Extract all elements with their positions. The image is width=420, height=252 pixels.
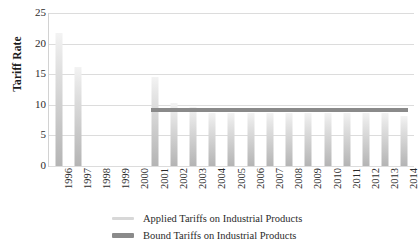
bar xyxy=(55,33,62,166)
x-tick-label: 2001 xyxy=(159,168,170,189)
bar-column xyxy=(395,13,414,166)
chart-legend: Applied Tariffs on Industrial Products B… xyxy=(112,210,412,244)
x-tick-label: 2000 xyxy=(139,168,150,189)
bar-column xyxy=(203,13,222,166)
x-tick-label: 2005 xyxy=(236,168,247,189)
x-axis-tick-labels: 1996199719981999200020012002200320042005… xyxy=(49,168,414,208)
y-tick-label: 25 xyxy=(4,6,46,18)
y-axis-tick-labels: 0510152025 xyxy=(0,13,46,166)
bar xyxy=(305,113,312,166)
bar xyxy=(170,103,177,166)
legend-item-applied: Applied Tariffs on Industrial Products xyxy=(112,210,412,227)
bar xyxy=(209,113,216,166)
bar xyxy=(343,113,350,166)
bar xyxy=(190,107,197,166)
y-tick-label: 15 xyxy=(4,67,46,79)
plot-area xyxy=(49,13,414,166)
bar xyxy=(401,116,408,166)
bar-column xyxy=(376,13,395,166)
x-tick-label: 2014 xyxy=(408,168,419,189)
gridline xyxy=(49,166,414,167)
bar xyxy=(382,113,389,166)
bar-series-applied-tariffs xyxy=(49,13,414,166)
legend-swatch-applied-icon xyxy=(112,217,134,220)
x-tick-label: 2010 xyxy=(332,168,343,189)
bar xyxy=(74,67,81,166)
chart-container: Tariff Rate 0510152025 19961997199819992… xyxy=(0,0,420,252)
bar xyxy=(362,113,369,166)
x-tick-label: 2009 xyxy=(312,168,323,189)
x-tick-label: 1997 xyxy=(82,168,93,189)
legend-label-applied: Applied Tariffs on Industrial Products xyxy=(143,213,302,224)
x-tick-label: 2002 xyxy=(178,168,189,189)
bar xyxy=(228,113,235,166)
bar-column xyxy=(164,13,183,166)
x-tick-label: 2004 xyxy=(216,168,227,189)
legend-item-bound: Bound Tariffs on Industrial Products xyxy=(112,227,412,244)
y-tick-label: 20 xyxy=(4,37,46,49)
y-tick-label: 0 xyxy=(4,159,46,171)
y-tick-label: 10 xyxy=(4,98,46,110)
bar-column xyxy=(337,13,356,166)
x-tick-label: 2008 xyxy=(293,168,304,189)
bar-column xyxy=(280,13,299,166)
bar xyxy=(247,113,254,166)
x-tick-label: 1999 xyxy=(120,168,131,189)
bar xyxy=(266,113,273,166)
x-tick-label: 2011 xyxy=(351,168,362,189)
bar-column xyxy=(49,13,68,166)
bar-column xyxy=(299,13,318,166)
bar-column xyxy=(241,13,260,166)
bar-column xyxy=(260,13,279,166)
x-tick-label: 2012 xyxy=(370,168,381,189)
bar-column xyxy=(183,13,202,166)
bar-column xyxy=(145,13,164,166)
x-tick-label: 2013 xyxy=(389,168,400,189)
bar xyxy=(151,77,158,166)
bar xyxy=(286,113,293,166)
legend-label-bound: Bound Tariffs on Industrial Products xyxy=(143,230,296,241)
legend-swatch-bound-icon xyxy=(112,233,134,238)
bound-tariff-line xyxy=(151,108,409,112)
bar-column xyxy=(222,13,241,166)
bar-column xyxy=(68,13,87,166)
bar-column xyxy=(356,13,375,166)
x-tick-label: 2003 xyxy=(197,168,208,189)
x-tick-label: 2006 xyxy=(255,168,266,189)
bar xyxy=(324,113,331,166)
y-tick-label: 5 xyxy=(4,128,46,140)
x-tick-label: 2007 xyxy=(274,168,285,189)
bar-column xyxy=(318,13,337,166)
x-tick-label: 1996 xyxy=(63,168,74,189)
x-tick-label: 1998 xyxy=(101,168,112,189)
